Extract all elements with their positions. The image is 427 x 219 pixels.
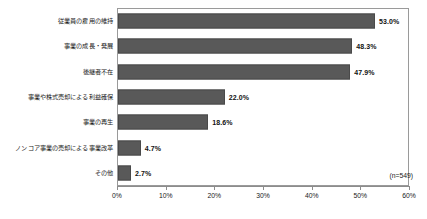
bar-segment (118, 13, 375, 28)
category-label: 事業や株式売却による利益確保 (28, 94, 113, 101)
x-axis-tick-label: 30% (256, 192, 270, 199)
x-axis-tick-label: 50% (353, 192, 367, 199)
category-label: その他 (95, 170, 113, 177)
bar-value-label: 48.3% (356, 43, 376, 50)
bar-value-label: 4.7% (145, 144, 161, 151)
bar-chart: 従業員の雇用の維持 53.0% 事業の成長・発展 48.3% 後継者不在 47.… (0, 0, 427, 219)
x-axis-tick-label: 0% (112, 192, 122, 199)
bar-segment (118, 64, 350, 79)
x-axis-tick-label: 40% (305, 192, 319, 199)
category-label: ノンコア事業の売却による事業改革 (15, 144, 113, 151)
bar-row: 事業の再生 18.6% (0, 110, 427, 135)
x-axis-tick-label: 60% (402, 192, 416, 199)
bar-value-label: 22.0% (229, 93, 249, 100)
x-axis-tick (214, 186, 215, 190)
x-axis-tick-label: 20% (207, 192, 221, 199)
x-axis-tick (409, 186, 410, 190)
bar-row: その他 2.7% (0, 161, 427, 186)
category-label: 後継者不在 (83, 68, 114, 75)
x-axis-tick-label: 10% (159, 192, 173, 199)
bar-value-label: 53.0% (379, 17, 399, 24)
bar-segment (118, 166, 131, 181)
bar-row: 従業員の雇用の維持 53.0% (0, 8, 427, 33)
bar-segment (118, 39, 352, 54)
bar-row: 後継者不在 47.9% (0, 59, 427, 84)
bar-value-label: 2.7% (135, 170, 151, 177)
bar-rows: 従業員の雇用の維持 53.0% 事業の成長・発展 48.3% 後継者不在 47.… (0, 8, 427, 186)
bar-value-label: 18.6% (212, 119, 232, 126)
bar-value-label: 47.9% (354, 68, 374, 75)
x-axis-tick (166, 186, 167, 190)
x-axis-tick (312, 186, 313, 190)
bar-segment (118, 89, 225, 104)
sample-size-annotation: (n=549) (389, 172, 413, 179)
bar-segment (118, 115, 208, 130)
bar-row: 事業や株式売却による利益確保 22.0% (0, 84, 427, 109)
category-label: 従業員の雇用の維持 (58, 17, 113, 24)
x-axis-tick (117, 186, 118, 190)
category-label: 事業の再生 (83, 119, 114, 126)
x-axis-tick (263, 186, 264, 190)
bar-row: ノンコア事業の売却による事業改革 4.7% (0, 135, 427, 160)
x-axis-tick (360, 186, 361, 190)
bar-row: 事業の成長・発展 48.3% (0, 33, 427, 58)
category-label: 事業の成長・発展 (64, 43, 113, 50)
bar-segment (118, 140, 141, 155)
